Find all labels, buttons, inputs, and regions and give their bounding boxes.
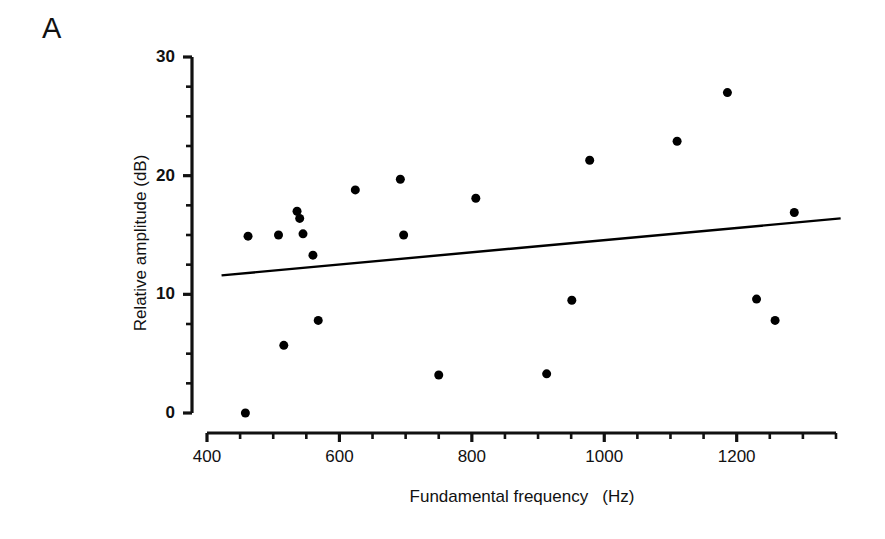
y-tick-label: 30 bbox=[97, 47, 175, 67]
data-point bbox=[723, 88, 732, 97]
data-point bbox=[351, 185, 360, 194]
x-tick-label: 1000 bbox=[585, 447, 623, 467]
data-point bbox=[241, 409, 250, 418]
data-points bbox=[241, 88, 799, 417]
data-point bbox=[314, 316, 323, 325]
data-point bbox=[308, 251, 317, 260]
x-tick-label: 600 bbox=[325, 447, 353, 467]
data-point bbox=[585, 156, 594, 165]
y-tick-label: 20 bbox=[97, 166, 175, 186]
data-point bbox=[673, 137, 682, 146]
x-tick-label: 400 bbox=[193, 447, 221, 467]
data-point bbox=[299, 229, 308, 238]
x-tick-label: 1200 bbox=[718, 447, 756, 467]
data-point bbox=[471, 194, 480, 203]
data-point bbox=[790, 208, 799, 217]
data-point bbox=[752, 295, 761, 304]
data-point bbox=[434, 371, 443, 380]
regression-line bbox=[222, 218, 841, 275]
regression-line-segment bbox=[222, 218, 841, 275]
data-point bbox=[771, 316, 780, 325]
data-point bbox=[279, 341, 288, 350]
data-point bbox=[542, 369, 551, 378]
data-point bbox=[396, 175, 405, 184]
data-point bbox=[244, 232, 253, 241]
figure-panel-a: A Relative amplitude (dB) Fundamental fr… bbox=[0, 0, 885, 539]
data-point bbox=[274, 231, 283, 240]
data-point bbox=[399, 231, 408, 240]
y-tick-label: 0 bbox=[97, 403, 175, 423]
y-tick-label: 10 bbox=[97, 284, 175, 304]
data-point bbox=[567, 296, 576, 305]
data-point bbox=[295, 214, 304, 223]
x-tick-label: 800 bbox=[458, 447, 486, 467]
